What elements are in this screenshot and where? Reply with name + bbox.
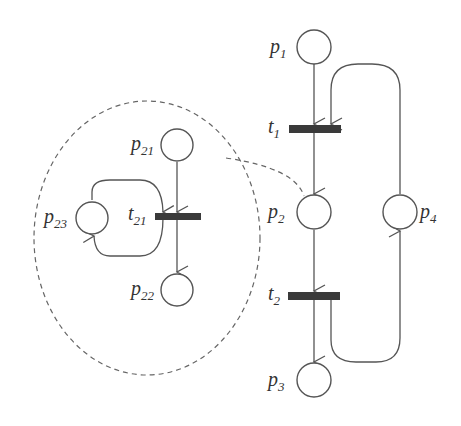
label-p3: p3	[266, 368, 285, 394]
label-p23: p23	[42, 205, 68, 231]
place-p4	[383, 195, 417, 229]
place-p21	[161, 129, 193, 161]
label-t21: t21	[128, 202, 147, 228]
petri-net-diagram: p1 t1 p2 p4 t2 p3 p21 t21 p22 p23	[0, 0, 461, 426]
arc-t2-p4	[331, 231, 400, 362]
refinement-connector	[226, 158, 304, 196]
place-p22	[161, 274, 193, 306]
label-p4: p4	[418, 200, 437, 226]
label-p1: p1	[268, 35, 287, 61]
place-p2	[297, 195, 331, 229]
place-p1	[297, 30, 331, 64]
label-p22: p22	[129, 277, 155, 303]
place-p3	[297, 363, 331, 397]
label-p2: p2	[266, 200, 285, 226]
place-p23	[76, 202, 108, 234]
arc-p4-t1	[331, 64, 400, 194]
transition-t21	[155, 213, 201, 220]
transition-t1	[289, 125, 341, 133]
label-p21: p21	[129, 132, 154, 158]
transition-t2	[288, 292, 340, 300]
label-t1: t1	[268, 115, 280, 141]
label-t2: t2	[268, 282, 281, 308]
